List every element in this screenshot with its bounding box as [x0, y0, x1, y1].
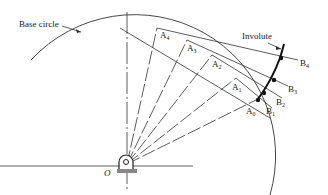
base-circle-label: Base circle — [19, 19, 59, 29]
involute-curve — [258, 44, 284, 99]
pivot-bearing-icon — [117, 155, 137, 173]
base-circle-arrow-icon — [76, 29, 81, 33]
base-circle — [31, 15, 276, 195]
label-a4: A4 — [160, 30, 170, 41]
label-a2: A2 — [212, 59, 222, 70]
origin-label: O — [104, 168, 111, 178]
label-a0: A0 — [246, 106, 256, 117]
involute-diagram: Base circle Involute O A4 A3 A2 A1 A0 B4… — [0, 0, 328, 195]
label-a1: A1 — [232, 82, 242, 93]
involute-label: Involute — [242, 31, 272, 41]
label-a3: A3 — [187, 43, 197, 54]
label-b1: B1 — [266, 106, 275, 117]
label-b3: B3 — [288, 84, 297, 95]
label-b2: B2 — [276, 97, 285, 108]
involute-arrow-icon — [276, 46, 281, 50]
label-b4: B4 — [300, 58, 309, 69]
